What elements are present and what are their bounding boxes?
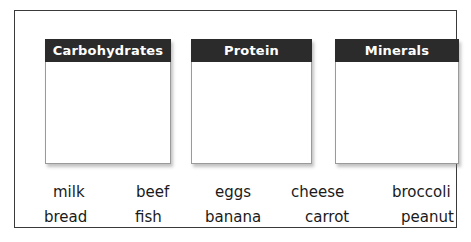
worksheet-frame: Carbohydrates Protein Minerals milk beef… [14,10,457,228]
word-item[interactable]: peanut [401,210,454,225]
category-dropzone-minerals[interactable] [336,62,458,163]
word-item[interactable]: beef [136,185,169,200]
category-dropzone-protein[interactable] [192,62,311,163]
category-header-protein: Protein [191,39,312,62]
category-card-minerals[interactable]: Minerals [335,39,459,164]
word-item[interactable]: broccoli [392,185,451,200]
word-item[interactable]: fish [135,210,162,225]
word-item[interactable]: milk [53,185,85,200]
category-card-carbohydrates[interactable]: Carbohydrates [45,39,171,164]
category-dropzone-carbohydrates[interactable] [46,62,170,163]
word-bank: milk beef eggs cheese broccoli bread fis… [29,177,471,235]
worksheet-canvas: Carbohydrates Protein Minerals milk beef… [0,0,471,242]
category-card-protein[interactable]: Protein [191,39,312,164]
word-item[interactable]: banana [205,210,261,225]
category-header-carbohydrates: Carbohydrates [45,39,171,62]
word-item[interactable]: eggs [215,185,251,200]
category-title-carbohydrates: Carbohydrates [53,44,164,58]
category-title-minerals: Minerals [365,44,429,58]
word-item[interactable]: cheese [291,185,344,200]
category-header-minerals: Minerals [335,39,459,62]
category-title-protein: Protein [224,44,279,58]
word-item[interactable]: carrot [305,210,349,225]
word-item[interactable]: bread [44,210,87,225]
